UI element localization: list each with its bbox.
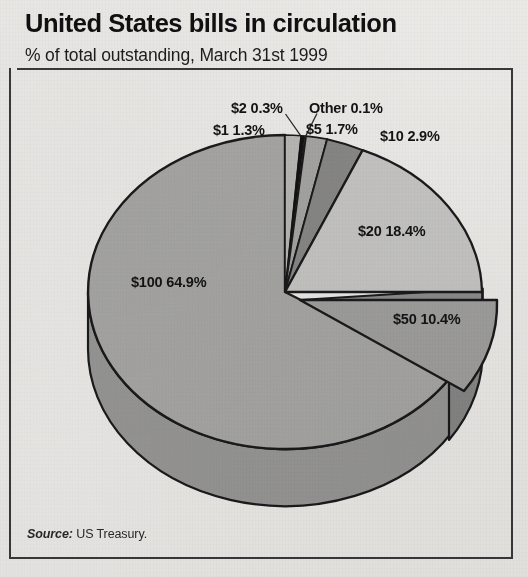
pie-label-20: $20 18.4% xyxy=(358,223,426,239)
pie-label-other: Other 0.1% xyxy=(309,100,383,116)
pie-label-10: $10 2.9% xyxy=(380,128,440,144)
pie-chart-graphic xyxy=(0,0,528,577)
source-label: Source: xyxy=(27,527,73,541)
source-value: US Treasury. xyxy=(73,527,147,541)
pie-label-1: $1 1.3% xyxy=(213,122,265,138)
pie-label-50: $50 10.4% xyxy=(393,311,461,327)
chart-page: United States bills in circulation % of … xyxy=(0,0,528,577)
pie-label-2: $2 0.3% xyxy=(231,100,283,116)
pie-label-5: $5 1.7% xyxy=(306,121,358,137)
leader-line-2 xyxy=(286,114,302,136)
pie-label-100: $100 64.9% xyxy=(131,274,206,290)
source-note: Source: US Treasury. xyxy=(27,527,147,541)
